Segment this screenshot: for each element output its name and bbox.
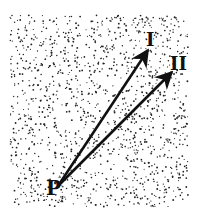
- origin-label-p: P: [46, 178, 61, 198]
- stipple-field: [10, 14, 189, 207]
- vector-arrow-ii: [58, 72, 172, 186]
- vector-label-i: I: [146, 31, 154, 49]
- diagram-canvas: [0, 0, 198, 216]
- vector-label-ii: II: [170, 55, 187, 73]
